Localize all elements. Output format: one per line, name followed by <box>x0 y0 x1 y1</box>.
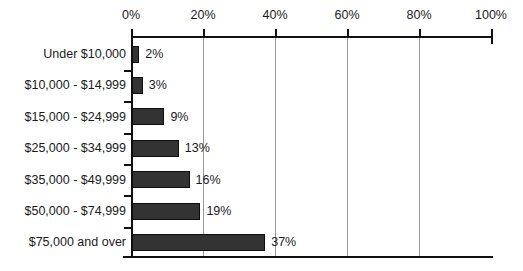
bar-chart: 0%20%40%60%80%100% Under $10,000$10,000 … <box>0 0 523 271</box>
bar-value-label: 19% <box>206 204 231 218</box>
x-axis-tick-mark <box>347 29 349 36</box>
y-axis-tick-mark <box>124 101 131 103</box>
x-axis-tick-mark <box>275 29 277 36</box>
x-gridline <box>347 38 348 256</box>
y-axis-tick-mark <box>124 164 131 166</box>
y-axis-category-label: Under $10,000 <box>43 47 126 61</box>
x-axis-tick-mark <box>203 29 205 36</box>
x-axis-tick-mark <box>491 29 493 36</box>
y-axis-category-label: $25,000 - $34,999 <box>25 141 126 155</box>
x-gridline <box>275 38 276 256</box>
bar-value-label: 9% <box>170 110 188 124</box>
bar <box>132 140 179 157</box>
bar-value-label: 3% <box>149 78 167 92</box>
x-gridline <box>419 38 420 256</box>
y-axis-category-labels: Under $10,000$10,000 - $14,999$15,000 - … <box>0 0 126 271</box>
y-axis-category-label: $50,000 - $74,999 <box>25 204 126 218</box>
x-axis-tick-label: 60% <box>334 8 359 22</box>
bar <box>132 203 200 220</box>
bar <box>132 46 139 63</box>
x-axis-bottom-line <box>131 256 493 258</box>
bar-value-label: 13% <box>185 141 210 155</box>
bar-value-label: 37% <box>271 235 296 249</box>
x-axis-tick-label: 20% <box>190 8 215 22</box>
y-axis-category-label: $10,000 - $14,999 <box>25 78 126 92</box>
bar-value-label: 16% <box>196 173 221 187</box>
x-axis-top-line <box>131 36 493 38</box>
x-axis-tick-label: 100% <box>475 8 507 22</box>
y-axis-category-label: $15,000 - $24,999 <box>25 110 126 124</box>
y-axis-tick-mark <box>124 70 131 72</box>
bar <box>132 108 164 125</box>
x-axis-tick-mark <box>419 29 421 36</box>
y-axis-category-label: $35,000 - $49,999 <box>25 173 126 187</box>
x-axis-tick-label: 40% <box>262 8 287 22</box>
x-axis-tick-mark <box>131 29 133 36</box>
y-axis-bottom-tick <box>123 256 131 258</box>
bar-value-label: 2% <box>145 47 163 61</box>
y-axis-tick-mark <box>124 227 131 229</box>
y-axis-tick-mark <box>124 195 131 197</box>
y-axis-category-label: $75,000 and over <box>29 235 126 249</box>
x-axis-tick-label: 80% <box>406 8 431 22</box>
bar <box>132 171 190 188</box>
y-axis-tick-mark <box>124 133 131 135</box>
bar <box>132 77 143 94</box>
x-axis-right-end-tick <box>491 36 493 44</box>
bar <box>132 234 265 251</box>
